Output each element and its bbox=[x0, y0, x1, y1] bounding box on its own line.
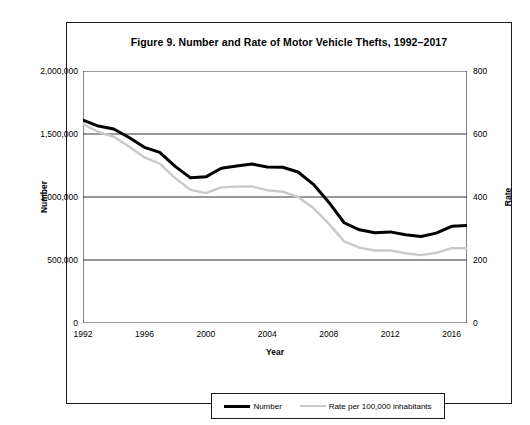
x-axis-tick-label: 2016 bbox=[442, 329, 461, 339]
legend-label-number: Number bbox=[253, 402, 281, 411]
figure-frame: Figure 9. Number and Rate of Motor Vehic… bbox=[66, 22, 512, 404]
y-axis-left-tick-label: 500,000 bbox=[47, 255, 78, 265]
x-axis-tick-label: 1996 bbox=[135, 329, 154, 339]
y-axis-left-tick-label: 2,000,000 bbox=[40, 66, 78, 76]
legend-swatch-rate-icon bbox=[300, 405, 326, 407]
chart-canvas bbox=[83, 71, 467, 323]
y-axis-left-tick-label: 0 bbox=[73, 318, 78, 328]
legend-label-rate: Rate per 100,000 inhabitants bbox=[329, 402, 432, 411]
legend-swatch-number-icon bbox=[224, 405, 250, 408]
y-axis-right-label: Rate bbox=[503, 188, 513, 206]
legend-item-number: Number bbox=[224, 402, 281, 411]
series-line-number bbox=[83, 120, 467, 236]
x-axis-tick-label: 2000 bbox=[196, 329, 215, 339]
y-axis-left-tick-label: 1,500,000 bbox=[40, 129, 78, 139]
y-axis-right-tick-label: 600 bbox=[473, 129, 487, 139]
x-axis-tick-label: 2008 bbox=[319, 329, 338, 339]
y-axis-right-tick-label: 800 bbox=[473, 66, 487, 76]
y-axis-left-label: Number bbox=[39, 181, 49, 213]
x-axis-tick-label: 2012 bbox=[381, 329, 400, 339]
y-axis-right-tick-label: 400 bbox=[473, 192, 487, 202]
y-axis-right-tick-label: 0 bbox=[473, 318, 478, 328]
x-axis-label: Year bbox=[83, 347, 467, 357]
chart-legend: Number Rate per 100,000 inhabitants bbox=[211, 393, 445, 419]
x-axis-tick-label: 2004 bbox=[258, 329, 277, 339]
chart-title: Figure 9. Number and Rate of Motor Vehic… bbox=[67, 36, 511, 48]
y-axis-right-tick-label: 200 bbox=[473, 255, 487, 265]
legend-item-rate: Rate per 100,000 inhabitants bbox=[300, 402, 432, 411]
plot-area: 0500,0001,000,0001,500,0002,000,000 0200… bbox=[83, 71, 467, 323]
x-axis-tick-label: 1992 bbox=[74, 329, 93, 339]
